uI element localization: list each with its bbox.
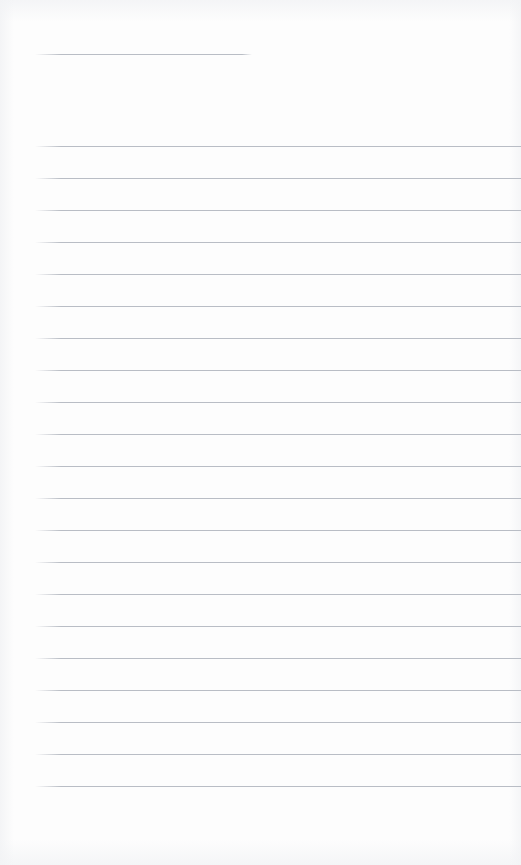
- rule-line: [35, 338, 521, 339]
- rule-line: [35, 210, 521, 211]
- rule-line: [35, 562, 521, 563]
- title-rule-line: [35, 54, 252, 55]
- rule-line: [35, 274, 521, 275]
- rule-line: [35, 690, 521, 691]
- rule-line: [35, 786, 521, 787]
- rule-line: [35, 658, 521, 659]
- rule-line: [35, 242, 521, 243]
- rule-line: [35, 146, 521, 147]
- rule-line: [35, 306, 521, 307]
- rule-line: [35, 754, 521, 755]
- rule-line: [35, 370, 521, 371]
- rule-line: [35, 178, 521, 179]
- lined-paper-page: [0, 0, 521, 865]
- rule-line: [35, 434, 521, 435]
- rule-line: [35, 466, 521, 467]
- rule-line: [35, 626, 521, 627]
- ruled-lines-group: [0, 0, 521, 865]
- rule-line: [35, 530, 521, 531]
- rule-line: [35, 402, 521, 403]
- rule-line: [35, 722, 521, 723]
- rule-line: [35, 594, 521, 595]
- rule-line: [35, 498, 521, 499]
